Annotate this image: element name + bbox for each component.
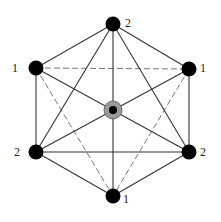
label-upper-left: 1 [12,61,18,75]
node-bot [106,189,121,204]
edge-lr-bot [113,152,189,196]
label-lower-left: 2 [14,145,20,159]
node-ll [29,145,44,160]
node-ur [182,62,197,77]
label-bottom: 1 [123,192,129,206]
graph-diagram: 2 1 1 2 2 1 [0,0,221,222]
label-lower-right: 2 [200,145,206,159]
node-lr [182,145,197,160]
center-node-core [109,106,117,114]
edge-ll-bot [36,152,113,196]
node-ul [29,61,44,76]
label-upper-right: 1 [200,61,206,75]
edge-top-ur [113,24,189,69]
node-top [106,17,121,32]
label-top: 2 [125,16,131,30]
edge-top-ul [36,24,113,68]
